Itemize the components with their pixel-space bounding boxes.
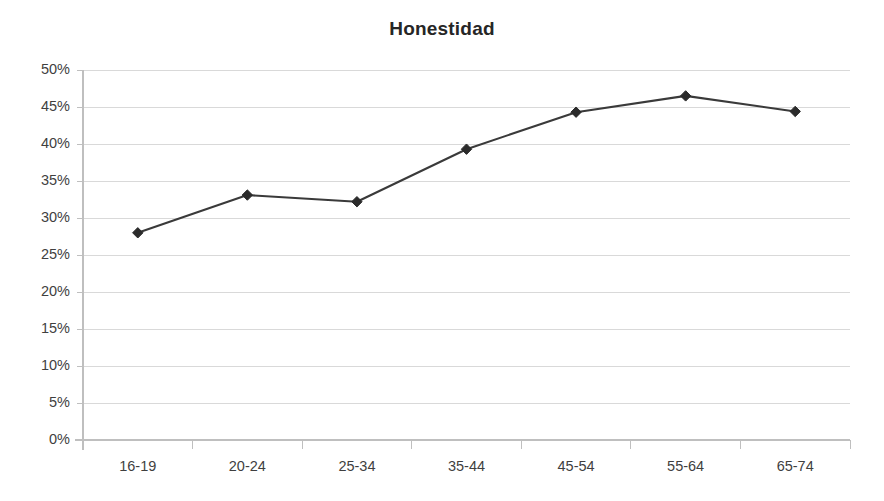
y-axis-tick-label: 20% — [8, 283, 70, 299]
y-axis-tick-label: 40% — [8, 135, 70, 151]
series-line-group — [138, 96, 795, 233]
line-chart-plot — [0, 0, 884, 501]
chart-container: Honestidad 0%5%10%15%20%25%30%35%40%45%5… — [0, 0, 884, 501]
y-axis-tick-label: 30% — [8, 209, 70, 225]
y-axis-tick-label: 10% — [8, 357, 70, 373]
axis-lines-group — [75, 70, 850, 450]
x-axis-tick-label: 55-64 — [631, 458, 741, 474]
series-line-honestidad — [138, 96, 795, 233]
data-point-marker — [571, 107, 581, 117]
y-axis-tick-label: 35% — [8, 172, 70, 188]
x-tick-marks-group — [83, 440, 850, 449]
gridlines-group — [83, 70, 850, 440]
x-axis-tick-label: 20-24 — [192, 458, 302, 474]
x-axis-tick-label: 35-44 — [412, 458, 522, 474]
y-axis-tick-label: 50% — [8, 61, 70, 77]
series-markers-group — [133, 91, 801, 238]
x-axis-tick-label: 16-19 — [83, 458, 193, 474]
x-axis-tick-label: 45-54 — [521, 458, 631, 474]
data-point-marker — [790, 106, 800, 116]
x-axis-tick-label: 65-74 — [740, 458, 850, 474]
data-point-marker — [461, 144, 471, 154]
y-axis-tick-label: 0% — [8, 431, 70, 447]
x-axis-tick-label: 25-34 — [302, 458, 412, 474]
data-point-marker — [242, 190, 252, 200]
y-tick-marks-group — [77, 70, 83, 440]
data-point-marker — [680, 91, 690, 101]
data-point-marker — [133, 228, 143, 238]
y-axis-tick-label: 5% — [8, 394, 70, 410]
y-axis-tick-label: 25% — [8, 246, 70, 262]
y-axis-tick-label: 15% — [8, 320, 70, 336]
data-point-marker — [352, 197, 362, 207]
y-axis-tick-label: 45% — [8, 98, 70, 114]
